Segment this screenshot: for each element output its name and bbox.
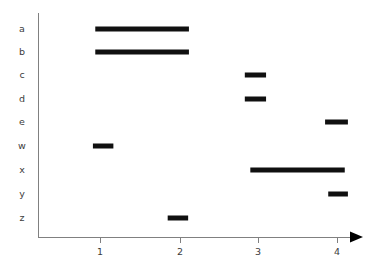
x-axis-ticks	[100, 237, 337, 243]
bar-e	[325, 120, 348, 125]
bar-d	[245, 97, 266, 102]
bar-b	[95, 50, 189, 55]
y-axis-category-label: d	[19, 93, 25, 104]
y-axis-category-label: b	[19, 46, 25, 57]
y-axis-category-labels: abcdewxyz	[18, 23, 26, 223]
axes-group	[38, 13, 363, 243]
y-axis-category-label: w	[18, 140, 26, 151]
y-axis-category-label: c	[19, 69, 24, 80]
bars-group	[93, 27, 348, 221]
y-axis-category-label: z	[20, 212, 25, 223]
x-axis-tick-label: 4	[334, 246, 340, 257]
chart-container: 1234 abcdewxyz	[0, 0, 386, 272]
bar-z	[168, 216, 188, 221]
x-axis-tick-label: 2	[177, 246, 183, 257]
y-axis-category-label: y	[19, 188, 25, 199]
y-axis-category-label: e	[19, 116, 25, 127]
x-axis-tick-label: 1	[97, 246, 103, 257]
bar-c	[245, 73, 266, 78]
x-axis-tick-label: 3	[255, 246, 261, 257]
bar-x	[250, 168, 344, 173]
x-axis-tick-labels: 1234	[97, 246, 340, 257]
y-axis-category-label: x	[19, 164, 25, 175]
bar-y	[328, 192, 348, 197]
bar-w	[93, 144, 113, 149]
bar-chart-plot: 1234 abcdewxyz	[0, 0, 386, 272]
bar-a	[95, 27, 189, 32]
x-axis-arrow-icon	[350, 232, 363, 243]
y-axis-category-label: a	[19, 23, 25, 34]
